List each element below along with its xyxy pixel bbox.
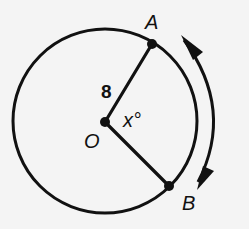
point-O (100, 117, 110, 127)
point-B (164, 181, 174, 191)
label-A: A (144, 11, 158, 33)
label-radius: 8 (101, 81, 112, 102)
label-angle: x° (122, 109, 141, 131)
label-B: B (182, 192, 195, 214)
circle-diagram: A B O 8 x° (0, 0, 249, 229)
point-A (147, 39, 157, 49)
label-O: O (84, 130, 100, 152)
